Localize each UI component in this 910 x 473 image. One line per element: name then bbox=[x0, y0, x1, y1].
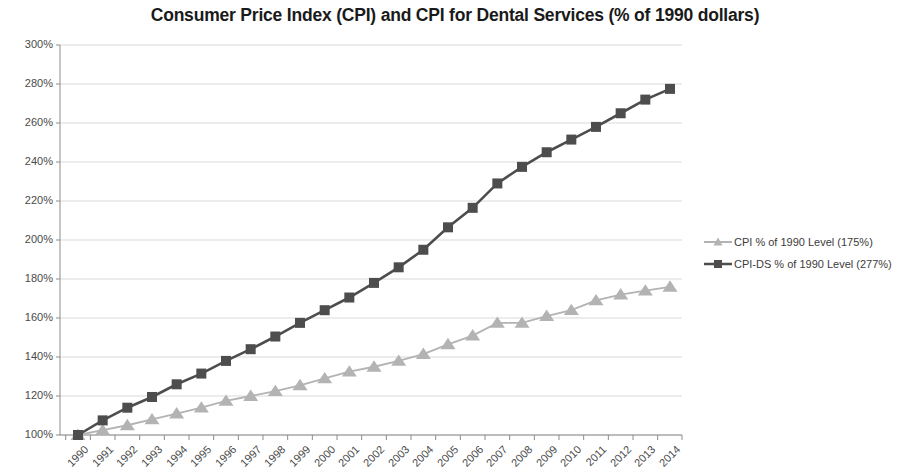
x-axis-ticks bbox=[66, 435, 682, 440]
data-point-marker bbox=[172, 379, 182, 389]
y-axis-tick-label: 160% bbox=[15, 311, 53, 323]
y-axis-tick-label: 220% bbox=[15, 194, 53, 206]
y-axis-tick-label: 260% bbox=[15, 116, 53, 128]
y-axis-tick-label: 300% bbox=[15, 38, 53, 50]
data-point-marker bbox=[147, 392, 157, 402]
data-point-marker bbox=[270, 332, 280, 342]
data-point-marker bbox=[122, 403, 132, 413]
data-point-marker bbox=[295, 318, 305, 328]
y-axis-tick-label: 280% bbox=[15, 77, 53, 89]
data-point-marker bbox=[665, 84, 675, 94]
legend-label-cpi: CPI % of 1990 Level (175%) bbox=[734, 236, 873, 248]
y-axis-tick-label: 100% bbox=[15, 428, 53, 440]
series-line-1 bbox=[78, 89, 670, 435]
data-point-marker bbox=[517, 162, 527, 172]
data-point-marker bbox=[320, 305, 330, 315]
data-point-marker bbox=[246, 344, 256, 354]
data-point-marker bbox=[418, 245, 428, 255]
legend-item-cpi-ds[interactable]: CPI-DS % of 1990 Level (277%) bbox=[704, 253, 904, 275]
data-point-marker bbox=[73, 430, 83, 440]
chart-container: Consumer Price Index (CPI) and CPI for D… bbox=[0, 0, 910, 473]
legend-marker-triangle-icon bbox=[704, 235, 732, 249]
y-axis-tick-label: 180% bbox=[15, 272, 53, 284]
data-point-marker bbox=[640, 95, 650, 105]
data-point-marker bbox=[416, 348, 431, 359]
data-point-marker bbox=[443, 222, 453, 232]
data-point-marker bbox=[344, 293, 354, 303]
legend-label-cpi-ds: CPI-DS % of 1990 Level (277%) bbox=[734, 258, 892, 270]
y-axis-tick-label: 200% bbox=[15, 233, 53, 245]
y-axis-tick-label: 140% bbox=[15, 350, 53, 362]
data-point-marker bbox=[98, 415, 108, 425]
data-point-marker bbox=[542, 147, 552, 157]
legend-marker-square-icon bbox=[704, 257, 732, 271]
chart-legend: CPI % of 1990 Level (175%) CPI-DS % of 1… bbox=[704, 231, 904, 275]
data-point-marker bbox=[468, 203, 478, 213]
data-point-marker bbox=[663, 280, 678, 291]
data-point-marker bbox=[221, 356, 231, 366]
y-axis-tick-label: 240% bbox=[15, 155, 53, 167]
data-point-marker bbox=[441, 338, 456, 349]
data-point-marker bbox=[394, 262, 404, 272]
data-point-marker bbox=[566, 135, 576, 145]
data-point-marker bbox=[465, 329, 480, 340]
data-point-marker bbox=[196, 369, 206, 379]
data-point-marker bbox=[616, 108, 626, 118]
data-point-marker bbox=[369, 278, 379, 288]
data-point-marker bbox=[591, 122, 601, 132]
data-point-marker bbox=[492, 178, 502, 188]
y-axis-tick-label: 120% bbox=[15, 389, 53, 401]
data-point-marker bbox=[564, 304, 579, 315]
legend-item-cpi[interactable]: CPI % of 1990 Level (175%) bbox=[704, 231, 904, 253]
gridlines bbox=[60, 45, 682, 435]
data-series-layer bbox=[71, 84, 678, 440]
